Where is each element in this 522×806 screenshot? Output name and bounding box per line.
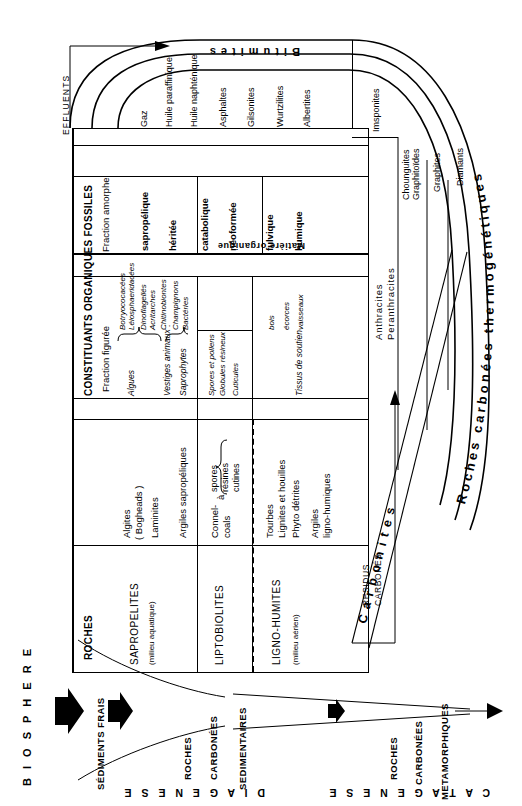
label-stage2-carbonees: CARBONÉES (414, 721, 424, 785)
label-stage2-roches: ROCHES (389, 737, 399, 780)
label-diagenese: D I A G E N E S E (121, 787, 265, 798)
label-catagenese: C A T A G E N E S E (326, 787, 490, 798)
diagram-canvas: ROCHES CONSTITUANTS ORGANIQUES FOSSILES … (0, 0, 522, 806)
label-stage1-carbonees: CARBONÉES (209, 716, 219, 780)
label-sediments-frais: SÉDIMENTS FRAIS (96, 697, 106, 790)
svg-text:Carbonites: Carbonites (355, 500, 399, 625)
label-stage2-metamorphiques: METAMORPHIQUES (440, 703, 450, 800)
label-stage1-roches: ROCHES (183, 737, 193, 780)
curved-text-carbonites: Carbonites (355, 500, 399, 625)
curved-title-inner: Carbonites (0, 0, 522, 806)
label-biosphere: B I O S P H E R E (22, 646, 34, 786)
label-stage1-sedimentaires: SEDIMENTAIRES (238, 707, 248, 790)
